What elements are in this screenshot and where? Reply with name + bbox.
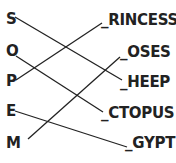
line-p-rincess [16, 23, 102, 80]
letter-e: E [6, 103, 16, 119]
word-rincess: _RINCESS [101, 12, 176, 28]
word-gypt: _GYPT [125, 135, 175, 151]
matching-diagram: S O P E M _RINCESS _OSES _HEEP _CTOPUS _… [0, 0, 176, 163]
letter-m: M [6, 135, 21, 151]
letter-s: S [6, 11, 17, 27]
word-oses: _OSES [120, 44, 171, 60]
letter-o: O [6, 43, 18, 59]
word-heep: _HEEP [120, 74, 170, 90]
line-m-oses [28, 57, 120, 139]
word-ctopus: _CTOPUS [101, 105, 174, 121]
letter-p: P [6, 73, 17, 89]
